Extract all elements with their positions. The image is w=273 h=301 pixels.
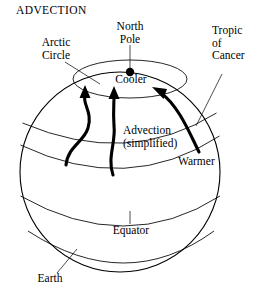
arctic-circle-label: Arctic Circle (28, 36, 84, 61)
arctic-circle-leader (65, 62, 100, 84)
advection-diagram: ADVECTION (0, 0, 273, 301)
flow-arrow-left-head (80, 85, 91, 98)
flow-arrow-center (111, 97, 114, 175)
earth-label: Earth (28, 272, 72, 285)
tropic-of-cancer-label: Tropic of Cancer (212, 24, 270, 62)
figure-title: ADVECTION (16, 4, 87, 16)
tropic-leader (196, 74, 222, 126)
warmer-label: Warmer (178, 155, 242, 168)
equator-label: Equator (103, 224, 159, 237)
flow-arrow-left (66, 95, 89, 165)
north-pole-label: North Pole (104, 20, 156, 45)
flow-arrow-center-head (109, 86, 120, 99)
sphere-outline (20, 72, 220, 272)
equator-latitude (21, 196, 221, 226)
advection-label: Advection (simplified) (123, 124, 201, 149)
cooler-label: Cooler (106, 73, 156, 86)
